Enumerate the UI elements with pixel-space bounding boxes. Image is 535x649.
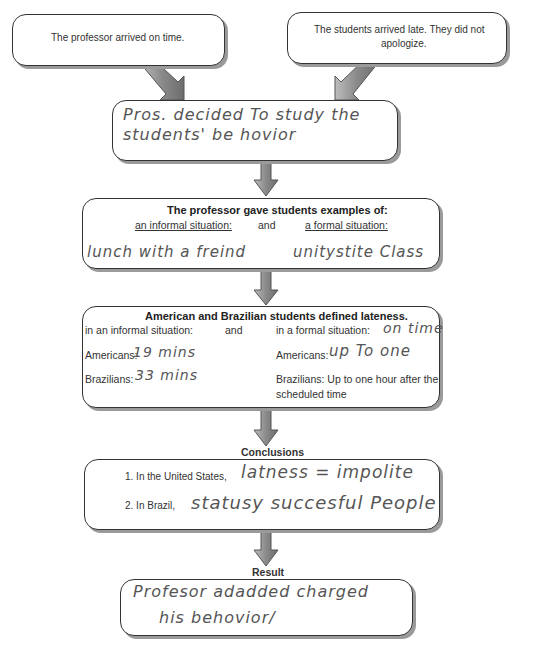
decision-line1[interactable]: Pros. decided To study the (123, 105, 360, 124)
lateness-formal-label: in a formal situation: (276, 324, 370, 336)
americans-label-right: Americans: (276, 349, 329, 361)
brazilians-label-left: Brazilians: (85, 373, 133, 385)
result-line2[interactable]: his behovior/ (159, 608, 276, 627)
americans-formal-answer[interactable]: up To one (329, 342, 411, 360)
lateness-box: American and Brazilian students defined … (82, 306, 440, 408)
conclusion-1-label: 1. In the United States, (125, 471, 227, 482)
arrow-down-icon (254, 530, 278, 566)
top-right-text-line1: The students arrived late. They did not (314, 24, 484, 35)
top-right-text-line2: apologize. (381, 38, 427, 49)
conclusion-2-label: 2. In Brazil, (125, 500, 175, 511)
lateness-and-label: and (225, 324, 243, 336)
decision-box: Pros. decided To study the students' be … (112, 100, 398, 161)
americans-label-left: Americans: (85, 349, 138, 361)
result-heading: Result (252, 566, 284, 578)
americans-informal-answer[interactable]: 19 mins (133, 344, 196, 360)
brazilians-informal-answer[interactable]: 33 mins (135, 367, 198, 383)
informal-answer[interactable]: lunch with a freind (87, 243, 246, 261)
examples-box: The professor gave students examples of:… (82, 198, 440, 269)
informal-label: an informal situation: (135, 219, 232, 231)
conclusion-1-answer[interactable]: latness = impolite (241, 462, 414, 482)
formal-answer[interactable]: unitystite Class (293, 243, 424, 261)
lateness-formal-answer[interactable]: on time (383, 320, 444, 336)
top-right-box: The students arrived late. They did not … (287, 12, 507, 64)
formal-label: a formal situation: (305, 219, 388, 231)
arrow-down-icon (254, 270, 278, 305)
examples-title: The professor gave students examples of: (167, 204, 388, 216)
and-label: and (258, 219, 276, 231)
conclusions-heading: Conclusions (241, 446, 304, 458)
decision-line2[interactable]: students' be hovior (123, 125, 296, 144)
conclusion-2-answer[interactable]: statusy succesful People (191, 492, 437, 513)
result-box: Profesor adadded charged his behovior/ (120, 579, 413, 636)
lateness-informal-label: in an informal situation: (85, 324, 193, 336)
top-left-text: The professor arrived on time. (51, 32, 184, 43)
brazilians-formal-line2: scheduled time (276, 388, 347, 400)
conclusions-box: 1. In the United States, latness = impol… (84, 459, 440, 530)
top-left-box: The professor arrived on time. (12, 14, 225, 66)
lateness-title: American and Brazilian students defined … (145, 310, 408, 322)
result-line1[interactable]: Profesor adadded charged (133, 582, 369, 601)
brazilians-formal-line1: Brazilians: Up to one hour after the (276, 373, 438, 385)
arrow-down-icon (254, 410, 278, 446)
arrow-down-icon (254, 160, 278, 196)
